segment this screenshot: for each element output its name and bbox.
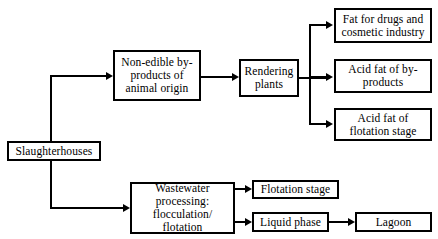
node-non-edible-byproducts: Non-edible by- products of animal origin [113,50,201,101]
node-acid-fat-of-flotation-stage-label: Acid fat of flotation stage [347,112,420,138]
node-non-edible-byproducts-label: Non-edible by- products of animal origin [118,56,195,95]
edge-slaughterhouses-to-wastewater [50,207,125,209]
node-slaughterhouses-label: Slaughterhouses [13,145,96,158]
node-fat-for-drugs-label: Fat for drugs and cosmetic industry [338,13,427,39]
arrowhead-fat-drugs [326,21,333,29]
arrowhead-lagoon [348,218,355,226]
edge-nonedible-to-rendering [200,76,234,78]
edge-slaughterhouses-to-nonedible [50,75,108,77]
edge-liquid-phase-to-lagoon [329,221,350,223]
arrowhead-nonedible [106,72,113,80]
arrowhead-acid-flotation [326,120,333,128]
node-rendering-plants-label: Rendering plants [242,65,297,91]
node-wastewater-processing-label: Wastewater processing: flocculation/ flo… [132,182,233,234]
node-rendering-plants: Rendering plants [239,59,299,97]
arrowhead-rendering [232,73,239,81]
node-wastewater-processing: Wastewater processing: flocculation/ flo… [130,182,235,234]
node-lagoon-label: Lagoon [373,216,415,229]
node-fat-for-drugs: Fat for drugs and cosmetic industry [334,8,432,43]
flowchart-diagram: Slaughterhouses Non-edible by- products … [0,0,438,239]
arrowhead-liquid-phase [245,218,252,226]
edge-rendering-distribution-trunk [309,24,311,125]
arrowhead-flotation-stage [245,185,252,193]
arrowhead-wastewater [123,204,130,212]
node-flotation-stage-label: Flotation stage [258,183,334,196]
node-lagoon: Lagoon [355,212,432,232]
node-acid-fat-of-byproducts: Acid fat of by- products [334,59,432,93]
node-slaughterhouses: Slaughterhouses [7,141,101,161]
node-flotation-stage: Flotation stage [252,180,339,199]
node-liquid-phase: Liquid phase [252,212,329,232]
arrowhead-acid-byproducts [326,73,333,81]
node-liquid-phase-label: Liquid phase [257,216,324,229]
node-acid-fat-of-byproducts-label: Acid fat of by- products [345,63,421,89]
node-acid-fat-of-flotation-stage: Acid fat of flotation stage [334,108,432,141]
